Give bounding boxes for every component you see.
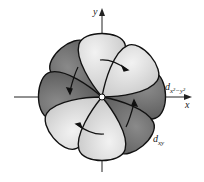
x-axis-label: x: [185, 100, 189, 110]
nucleus-dot: [99, 94, 105, 100]
label-dxy: dxy: [153, 134, 164, 147]
label-sub: xy: [158, 139, 164, 147]
label-dx2-y2: dx²−y²: [165, 82, 185, 95]
y-axis-arrow-icon: [99, 8, 105, 16]
y-axis-label: y: [93, 7, 97, 17]
label-sub: x²−y²: [170, 87, 185, 95]
